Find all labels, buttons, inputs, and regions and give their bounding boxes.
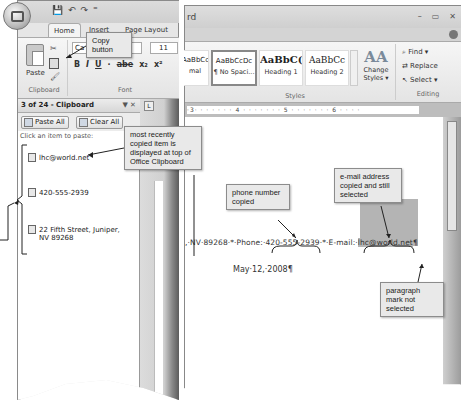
close-button[interactable]: ✕	[449, 12, 456, 21]
style-no-spacing[interactable]: AaBbCcDc ¶ No Spaci...	[211, 50, 257, 86]
paste-all-icon	[24, 118, 33, 127]
document-line-contact[interactable]: ,·NV·89268·*·Phone:·420-555-2939·*·E-mai…	[185, 238, 418, 247]
clipboard-item-icon	[28, 153, 36, 162]
clipboard-task-pane: 3 of 24 - Clipboard ▼ ✕ Paste All Clear …	[18, 99, 140, 401]
pane-close-controls[interactable]: ▼ ✕	[123, 101, 136, 109]
underline-dropdown[interactable]: ·	[108, 60, 111, 69]
clipboard-group: Paste ✂ 🖌 Clipboard	[20, 40, 68, 96]
selected-email-text: lhc@world.net	[358, 238, 413, 247]
clipboard-button-row: Paste All Clear All	[18, 113, 140, 131]
change-styles-icon: AA	[361, 48, 391, 66]
redo-icon[interactable]: ↷	[81, 5, 89, 17]
vertical-scrollbar[interactable]	[443, 117, 462, 397]
undo-icon[interactable]: ↶	[68, 5, 76, 17]
clipboard-item-address-line2: NV 89268	[39, 234, 120, 242]
format-painter-icon[interactable]: 🖌	[50, 72, 60, 81]
quick-access-toolbar: 💾 ↶ ↷ ⁼	[52, 5, 98, 17]
clipboard-group-label: Clipboard	[22, 86, 66, 94]
callout-phone: phone number copied	[226, 184, 290, 210]
find-button[interactable]: ⌕ Find ▾	[402, 48, 428, 56]
change-styles-button[interactable]: AA Change Styles ▾	[361, 48, 391, 82]
ribbon: AaBbCcDc mal AaBbCcDc ¶ No Spaci... AaBb…	[185, 41, 462, 103]
callout-paragraph: paragraph mark not selected	[380, 282, 444, 317]
help-icon[interactable]	[449, 30, 458, 39]
styles-gallery-scroll[interactable]	[350, 50, 358, 86]
replace-icon: ⇄	[402, 62, 410, 70]
document-line-date[interactable]: May·12,·2008¶	[233, 265, 293, 274]
format-buttons: B I U · abe x₂ x²	[74, 60, 163, 69]
horizontal-ruler: ·3· · · · · · · 4 · · · · · · · 5 · · · …	[185, 103, 462, 117]
superscript-button[interactable]: x²	[154, 60, 163, 69]
font-size-dropdown[interactable]: 11	[150, 42, 178, 54]
clipboard-item-icon	[28, 188, 36, 197]
clipboard-item-phone[interactable]: 420-555-2939	[28, 188, 89, 197]
window-title: rd	[187, 12, 196, 22]
office-logo-icon	[11, 11, 24, 22]
style-heading-1[interactable]: AaBbC( Heading 1	[259, 50, 303, 86]
ribbon-tab-strip	[185, 28, 462, 41]
select-cursor-icon: ↖	[402, 76, 410, 84]
minimize-button[interactable]: –	[418, 12, 422, 21]
font-group-label: Font	[70, 86, 180, 94]
editing-group: ⌕ Find ▾ ⇄ Replace ↖ Select ▾ Editing	[395, 44, 459, 100]
customize-qat-icon[interactable]: ⁼	[93, 5, 98, 17]
window-controls: – ▭ ✕	[418, 12, 456, 21]
clipboard-item-address[interactable]: 22 Fifth Street, Juniper, NV 89268	[28, 225, 120, 242]
clipboard-pane-title: 3 of 24 - Clipboard	[21, 101, 94, 109]
underline-button[interactable]: U	[95, 60, 102, 69]
clear-all-label: Clear All	[90, 118, 119, 126]
paste-button[interactable]: Paste	[26, 69, 45, 77]
ruler-toggle-button[interactable]: L	[144, 101, 154, 111]
callout-email: e-mail address copied and still selected	[334, 168, 402, 203]
style-heading-2[interactable]: AaBbCc Heading 2	[305, 50, 349, 86]
styles-group-label: Styles	[235, 92, 355, 100]
callout-most-recent: most recently copied item is displayed a…	[124, 126, 202, 170]
cut-icon[interactable]: ✂	[50, 44, 57, 53]
clipboard-item-icon	[28, 225, 36, 234]
paste-all-button[interactable]: Paste All	[21, 116, 69, 129]
clipboard-window: 💾 ↶ ↷ ⁼ Home Insert Page Layout Paste ✂ …	[17, 0, 179, 400]
bold-button[interactable]: B	[74, 60, 80, 69]
document-body[interactable]: ,·NV·89268·*·Phone:·420-555-2939·*·E-mai…	[185, 117, 443, 401]
clipboard-instruction: Click an item to paste:	[20, 132, 93, 140]
tab-home[interactable]: Home	[48, 23, 81, 37]
editing-group-label: Editing	[396, 90, 460, 98]
copy-icon[interactable]	[49, 58, 59, 69]
style-normal[interactable]: AaBbCcDc mal	[181, 50, 209, 86]
replace-button[interactable]: ⇄ Replace	[402, 62, 438, 70]
restore-button[interactable]: ▭	[432, 12, 440, 21]
office-button[interactable]	[3, 2, 31, 30]
clear-all-button[interactable]: Clear All	[76, 116, 123, 129]
title-bar: 💾 ↶ ↷ ⁼	[18, 1, 180, 23]
strikethrough-button[interactable]: abe	[117, 60, 134, 69]
subscript-button[interactable]: x₂	[139, 60, 148, 69]
paragraph-mark: ¶	[413, 238, 418, 247]
scrollbar-thumb[interactable]	[447, 121, 457, 231]
paste-icon[interactable]	[26, 44, 44, 66]
save-icon[interactable]: 💾	[52, 5, 63, 17]
select-button[interactable]: ↖ Select ▾	[402, 76, 437, 84]
clipboard-pane-header: 3 of 24 - Clipboard ▼ ✕	[18, 99, 140, 113]
italic-button[interactable]: I	[86, 60, 89, 69]
paste-all-label: Paste All	[35, 118, 65, 126]
clear-all-icon	[79, 118, 88, 127]
title-bar: rd – ▭ ✕	[185, 6, 462, 28]
clipboard-item-email[interactable]: lhc@world.net	[28, 153, 89, 162]
callout-copy-button: Copy button	[86, 32, 132, 58]
